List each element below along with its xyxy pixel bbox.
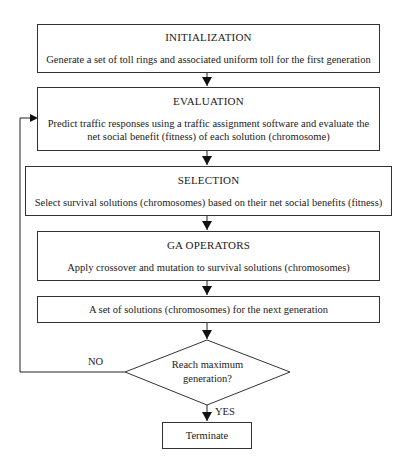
step-description: Select survival solutions (chromosomes) … bbox=[35, 196, 383, 209]
decision-label: Reach maximum generation? bbox=[150, 358, 265, 386]
step-next-generation: A set of solutions (chromosomes) for the… bbox=[37, 296, 380, 323]
decision-line-2: generation? bbox=[150, 372, 265, 386]
step-evaluation: EVALUATION Predict traffic responses usi… bbox=[37, 87, 380, 151]
step-ga-operators: GA OPERATORS Apply crossover and mutatio… bbox=[37, 231, 380, 281]
no-label: NO bbox=[88, 356, 103, 368]
terminal-terminate: Terminate bbox=[162, 422, 252, 449]
step-description: Generate a set of toll rings and associa… bbox=[46, 53, 371, 66]
step-title: EVALUATION bbox=[173, 95, 244, 108]
step-title: INITIALIZATION bbox=[165, 31, 252, 44]
decision-line-1: Reach maximum bbox=[150, 358, 265, 372]
step-description: Apply crossover and mutation to survival… bbox=[67, 261, 350, 274]
step-title: GA OPERATORS bbox=[167, 239, 250, 252]
step-title: SELECTION bbox=[178, 174, 240, 187]
step-description: A set of solutions (chromosomes) for the… bbox=[89, 303, 328, 316]
yes-label: YES bbox=[215, 406, 235, 418]
step-selection: SELECTION Select survival solutions (chr… bbox=[25, 166, 392, 216]
step-description-line-1: Predict traffic responses using a traffi… bbox=[48, 117, 370, 130]
step-description-line-2: net social benefit (fitness) of each sol… bbox=[87, 130, 329, 143]
step-initialization: INITIALIZATION Generate a set of toll ri… bbox=[37, 24, 380, 73]
terminal-label: Terminate bbox=[186, 429, 228, 442]
